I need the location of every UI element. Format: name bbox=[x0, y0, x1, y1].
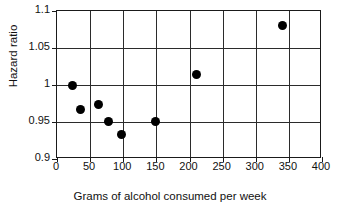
data-point bbox=[117, 130, 126, 139]
data-point bbox=[278, 21, 287, 30]
y-gridline bbox=[57, 122, 320, 123]
y-tick-mark bbox=[52, 11, 57, 12]
y-tick-mark bbox=[52, 48, 57, 49]
data-point bbox=[94, 100, 103, 109]
plot-area bbox=[56, 10, 321, 158]
data-point bbox=[68, 81, 77, 90]
data-point bbox=[104, 117, 113, 126]
y-tick-label: 0.95 bbox=[4, 114, 50, 127]
x-gridline bbox=[223, 11, 224, 157]
x-tick-label: 400 bbox=[301, 160, 340, 173]
data-point bbox=[151, 117, 160, 126]
y-gridline bbox=[57, 48, 320, 49]
data-point bbox=[76, 105, 85, 114]
y-tick-label: 0.9 bbox=[4, 151, 50, 164]
y-tick-mark bbox=[52, 122, 57, 123]
x-gridline bbox=[256, 11, 257, 157]
x-gridline bbox=[190, 11, 191, 157]
y-axis-title: Hazard ratio bbox=[7, 6, 19, 106]
x-gridline bbox=[156, 11, 157, 157]
x-gridline bbox=[90, 11, 91, 157]
y-tick-mark bbox=[52, 85, 57, 86]
y-tick-label: 1 bbox=[4, 77, 50, 90]
scatter-chart: Hazard ratio Grams of alcohol consumed p… bbox=[0, 0, 340, 215]
x-axis-title: Grams of alcohol consumed per week bbox=[0, 190, 340, 202]
x-gridline bbox=[289, 11, 290, 157]
data-point bbox=[192, 70, 201, 79]
y-tick-label: 1.05 bbox=[4, 40, 50, 53]
y-tick-label: 1.1 bbox=[4, 3, 50, 16]
y-gridline bbox=[57, 85, 320, 86]
